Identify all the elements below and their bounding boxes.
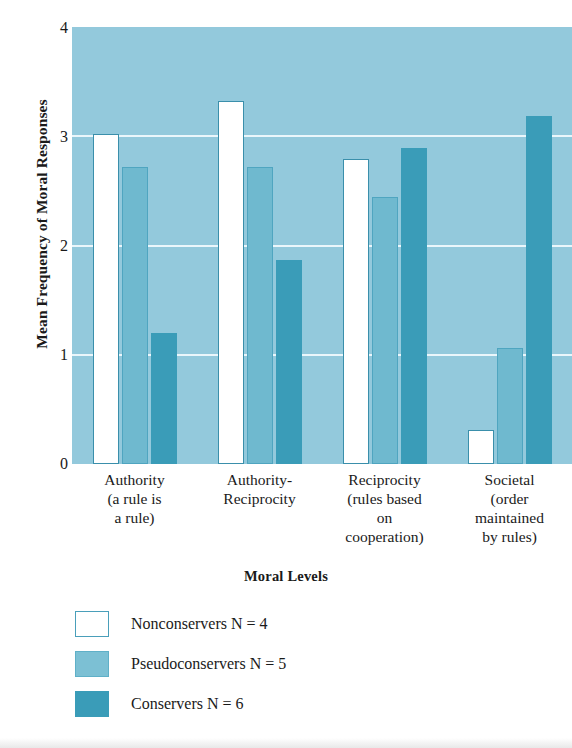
legend-swatch-nonconservers: [75, 611, 109, 637]
x-axis-category-labels: Authority(a rule isa rule)Authority-Reci…: [72, 470, 572, 562]
plot-area: [72, 27, 572, 464]
bar-pseudoconservers-group-4: [497, 348, 523, 464]
bar-pseudoconservers-group-2: [247, 167, 273, 464]
x-category-3-line-2: (rules based: [314, 489, 455, 508]
x-category-4-line-1: Societal: [439, 470, 572, 489]
x-category-2-line-2: Reciprocity: [189, 489, 330, 508]
y-axis-tick-labels: 4 3 2 1 0: [34, 0, 68, 748]
bar-pseudoconservers-group-3: [372, 197, 398, 464]
x-category-3-line-1: Reciprocity: [314, 470, 455, 489]
legend-item-pseudoconservers: Pseudoconservers N = 5: [75, 644, 495, 684]
x-category-1-line-1: Authority: [64, 470, 205, 489]
gridline-3: [72, 135, 572, 137]
chart-legend: Nonconservers N = 4 Pseudoconservers N =…: [75, 604, 495, 724]
bar-pseudoconservers-group-1: [122, 167, 148, 464]
x-category-3-line-3: on: [314, 508, 455, 527]
y-tick-1: 1: [38, 347, 68, 363]
x-category-3-line-4: cooperation): [314, 527, 455, 546]
page-edge-artifact: [0, 738, 572, 748]
legend-swatch-conservers: [75, 691, 109, 717]
x-category-4-line-2: (order: [439, 489, 572, 508]
legend-label-pseudoconservers: Pseudoconservers N = 5: [131, 655, 286, 673]
y-tick-3: 3: [38, 129, 68, 145]
legend-label-conservers: Conservers N = 6: [131, 695, 244, 713]
chart-figure: Mean Frequency of Moral Responses 4 3 2 …: [0, 0, 572, 748]
x-category-4-line-4: by rules): [439, 527, 572, 546]
bar-nonconservers-group-2: [218, 101, 244, 464]
x-category-label-2: Authority-Reciprocity: [189, 470, 330, 508]
x-category-1-line-3: a rule): [64, 508, 205, 527]
bar-conservers-group-1: [151, 333, 177, 464]
x-category-4-line-3: maintained: [439, 508, 572, 527]
x-category-label-1: Authority(a rule isa rule): [64, 470, 205, 527]
bar-conservers-group-4: [526, 116, 552, 465]
legend-label-nonconservers: Nonconservers N = 4: [131, 615, 268, 633]
legend-item-conservers: Conservers N = 6: [75, 684, 495, 724]
bar-nonconservers-group-3: [343, 159, 369, 464]
y-tick-4: 4: [38, 20, 68, 36]
x-category-2-line-1: Authority-: [189, 470, 330, 489]
legend-swatch-pseudoconservers: [75, 651, 109, 677]
bar-conservers-group-2: [276, 260, 302, 464]
bar-conservers-group-3: [401, 148, 427, 464]
legend-item-nonconservers: Nonconservers N = 4: [75, 604, 495, 644]
x-category-label-4: Societal(ordermaintainedby rules): [439, 470, 572, 546]
bar-nonconservers-group-4: [468, 430, 494, 464]
y-tick-2: 2: [38, 238, 68, 254]
x-category-label-3: Reciprocity(rules basedoncooperation): [314, 470, 455, 546]
x-category-1-line-2: (a rule is: [64, 489, 205, 508]
bar-nonconservers-group-1: [93, 134, 119, 464]
x-axis-title: Moral Levels: [0, 568, 572, 585]
